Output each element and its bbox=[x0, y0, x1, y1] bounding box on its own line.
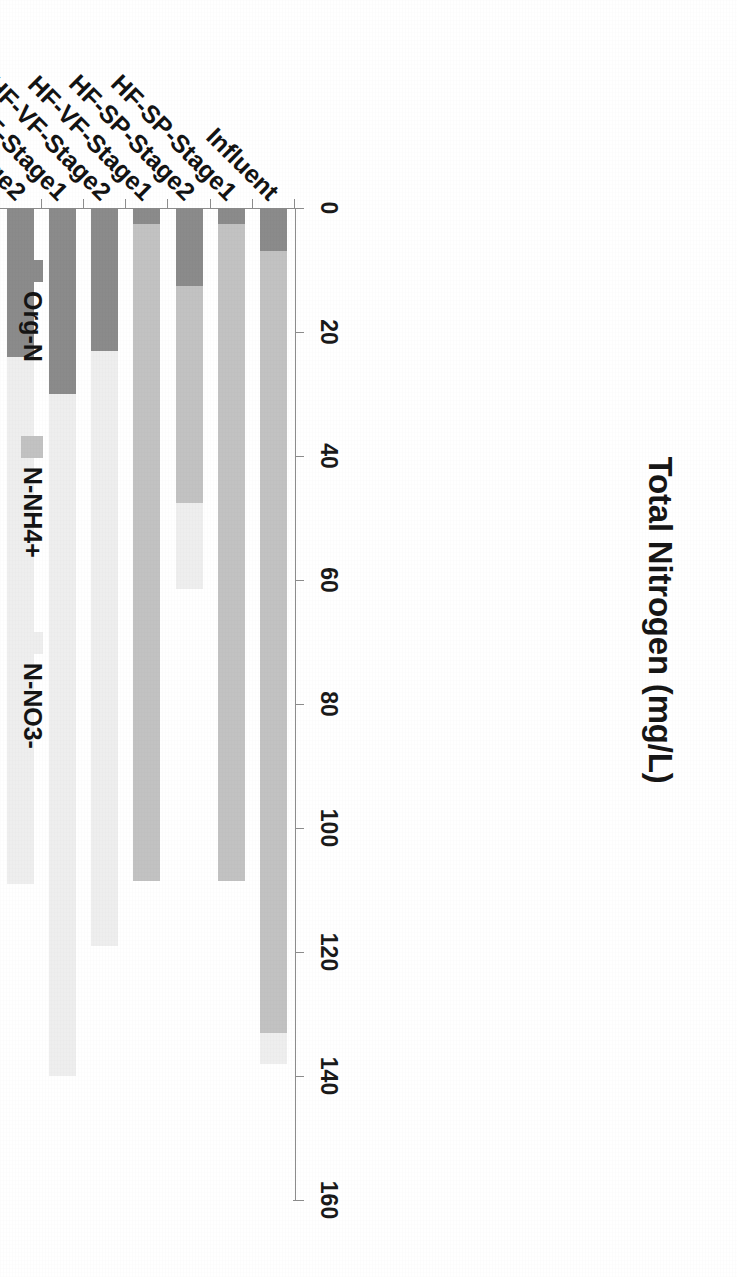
legend-item[interactable]: N-NO3- bbox=[18, 632, 47, 749]
bar-segment[interactable] bbox=[133, 208, 160, 224]
axis-tick bbox=[296, 1076, 304, 1077]
bar-segment[interactable] bbox=[218, 224, 245, 881]
chart-title-wrapper: Total Nitrogen (mg/L) bbox=[641, 115, 679, 1125]
axis-tick-label: 100 bbox=[315, 809, 342, 847]
bar-row[interactable] bbox=[176, 208, 203, 1200]
bar-segment[interactable] bbox=[260, 251, 287, 1032]
axis-tick-label: 140 bbox=[315, 1057, 342, 1095]
bar-row[interactable] bbox=[218, 208, 245, 1200]
axis-tick-label: 0 bbox=[315, 202, 342, 215]
bar-row[interactable] bbox=[91, 208, 118, 1200]
axis-tick bbox=[293, 1200, 304, 1201]
legend-swatch-icon bbox=[22, 436, 44, 458]
rotated-figure-stage: Total Nitrogen (mg/L) 020406080100120140… bbox=[0, 0, 737, 1277]
bar-segment[interactable] bbox=[260, 1033, 287, 1064]
category-tick bbox=[83, 199, 84, 208]
chart-title: Total Nitrogen (mg/L) bbox=[641, 115, 679, 1125]
axis-tick-label: 160 bbox=[315, 1181, 342, 1219]
category-tick bbox=[41, 199, 42, 208]
category-tick bbox=[252, 199, 253, 208]
legend-swatch-icon bbox=[22, 632, 44, 654]
bar-segment[interactable] bbox=[91, 351, 118, 946]
axis-tick-label: 40 bbox=[315, 443, 342, 469]
axis-tick-label: 80 bbox=[315, 691, 342, 717]
bar-row[interactable] bbox=[133, 208, 160, 1200]
axis-tick-label: 20 bbox=[315, 319, 342, 345]
axis-tick bbox=[296, 704, 304, 705]
bar-segment[interactable] bbox=[49, 394, 76, 1076]
bar-row[interactable] bbox=[260, 208, 287, 1200]
bar-segment[interactable] bbox=[176, 208, 203, 286]
chart-legend: Org-NN-NH4+N-NO3- bbox=[18, 260, 47, 749]
axis-tick bbox=[296, 208, 304, 209]
bar-segment[interactable] bbox=[176, 286, 203, 503]
bar-segment[interactable] bbox=[133, 224, 160, 881]
legend-label: Org-N bbox=[18, 291, 47, 362]
bar-segment[interactable] bbox=[91, 208, 118, 351]
bar-segment[interactable] bbox=[218, 208, 245, 224]
bar-segment[interactable] bbox=[176, 503, 203, 590]
bar-row[interactable] bbox=[49, 208, 76, 1200]
legend-item[interactable]: N-NH4+ bbox=[18, 436, 47, 558]
bar-segment[interactable] bbox=[260, 208, 287, 251]
bar-segment[interactable] bbox=[49, 208, 76, 394]
axis-tick bbox=[296, 332, 304, 333]
category-tick bbox=[294, 199, 295, 208]
category-tick bbox=[167, 199, 168, 208]
stacked-bar-chart: Total Nitrogen (mg/L) 020406080100120140… bbox=[0, 0, 737, 1277]
legend-swatch-icon bbox=[22, 260, 44, 282]
legend-item[interactable]: Org-N bbox=[18, 260, 47, 362]
category-tick bbox=[210, 199, 211, 208]
category-tick bbox=[125, 199, 126, 208]
axis-tick bbox=[296, 580, 304, 581]
legend-label: N-NO3- bbox=[18, 663, 47, 749]
axis-tick-label: 60 bbox=[315, 567, 342, 593]
axis-tick-label: 120 bbox=[315, 933, 342, 971]
axis-tick bbox=[296, 456, 304, 457]
axis-tick bbox=[296, 952, 304, 953]
axis-tick bbox=[296, 828, 304, 829]
legend-label: N-NH4+ bbox=[18, 467, 47, 558]
